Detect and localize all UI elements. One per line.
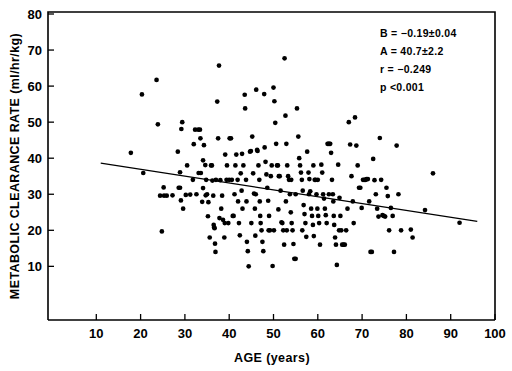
data-point [255, 149, 260, 154]
data-point [201, 158, 206, 163]
data-point [200, 199, 205, 204]
data-point [185, 163, 190, 168]
data-point [396, 192, 401, 197]
data-point [311, 223, 316, 228]
scatter-plot-canvas: 102030405060708090100 1020304050607080 A… [0, 0, 512, 371]
data-point [183, 193, 188, 198]
data-point [268, 174, 273, 179]
data-point [282, 56, 287, 61]
data-point [198, 127, 203, 132]
x-tick-label-60: 60 [311, 326, 325, 341]
data-point [423, 208, 428, 213]
y-axis-tick-marks [48, 14, 54, 266]
data-point [206, 214, 211, 219]
data-point [323, 206, 328, 211]
y-tick-label-30: 30 [28, 187, 42, 202]
data-point [238, 171, 243, 176]
data-point [232, 192, 237, 197]
data-point [234, 152, 239, 157]
y-tick-label-20: 20 [28, 223, 42, 238]
statistics-annotation: B = −0.19±0.04 A = 40.7±2.2 r = −0.249 p… [380, 27, 457, 93]
data-point [266, 228, 271, 233]
data-point [266, 198, 271, 203]
data-point [328, 141, 333, 146]
data-point [263, 159, 268, 164]
data-point [244, 199, 249, 204]
slope-annotation: B = −0.19±0.04 [380, 27, 457, 39]
data-point [223, 152, 228, 157]
data-point [336, 162, 341, 167]
data-point [198, 136, 203, 141]
data-point [246, 264, 251, 269]
data-point [267, 214, 272, 219]
data-point [354, 143, 359, 148]
data-point [331, 214, 336, 219]
data-point [300, 188, 305, 193]
data-point [175, 149, 180, 154]
data-point [280, 221, 285, 226]
data-point [213, 250, 218, 255]
data-point [245, 239, 250, 244]
x-axis-tick-marks [96, 314, 495, 320]
pvalue-annotation: p <0.001 [380, 81, 424, 93]
data-point [274, 141, 279, 146]
data-point [194, 192, 199, 197]
data-point [199, 171, 204, 176]
data-point [241, 163, 246, 168]
data-point [191, 142, 196, 147]
data-point [298, 163, 303, 168]
data-point [229, 136, 234, 141]
data-point [284, 228, 289, 233]
data-point [315, 177, 320, 182]
data-point [299, 170, 304, 175]
data-point [320, 170, 325, 175]
data-point [253, 192, 258, 197]
data-point [154, 78, 159, 83]
data-point [160, 229, 165, 234]
data-point [237, 221, 242, 226]
data-point [353, 115, 358, 120]
y-tick-label-60: 60 [28, 79, 42, 94]
data-point [300, 177, 305, 182]
data-point [259, 228, 264, 233]
data-point [348, 142, 353, 147]
data-point [284, 141, 289, 146]
data-point [236, 199, 241, 204]
data-point [222, 235, 227, 240]
y-tick-label-50: 50 [28, 115, 42, 130]
data-point [295, 106, 300, 111]
data-point [227, 177, 232, 182]
data-point [335, 263, 340, 268]
data-point [215, 99, 220, 104]
data-point [253, 206, 258, 211]
data-point [181, 206, 186, 211]
data-point [289, 177, 294, 182]
data-point [140, 92, 145, 97]
data-point [240, 152, 245, 157]
data-point [316, 214, 321, 219]
data-point [225, 163, 230, 168]
x-tick-label-70: 70 [355, 326, 369, 341]
x-tick-label-20: 20 [133, 326, 147, 341]
data-point [338, 214, 343, 219]
data-point [307, 177, 312, 182]
data-point [366, 177, 371, 182]
data-point [213, 241, 218, 246]
data-point [323, 213, 328, 218]
correlation-annotation: r = −0.249 [380, 63, 431, 75]
data-point [394, 143, 399, 148]
data-point [379, 177, 384, 182]
data-point [301, 203, 306, 208]
data-point [257, 177, 262, 182]
data-point [271, 85, 276, 90]
data-point [370, 250, 375, 255]
data-point [377, 136, 382, 141]
data-point [178, 185, 183, 190]
data-point [270, 264, 275, 269]
data-point [245, 249, 250, 254]
data-point [371, 157, 376, 162]
data-point [254, 87, 259, 92]
data-point [310, 214, 315, 219]
data-point [201, 186, 206, 191]
data-point [297, 156, 302, 161]
